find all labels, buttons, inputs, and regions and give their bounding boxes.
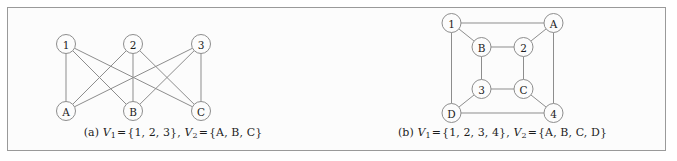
graph-edge	[531, 29, 546, 41]
graph-node-B: B	[124, 102, 143, 121]
graph-node-2: 2	[514, 38, 533, 57]
bipartite-graph-k33: 123ABC	[8, 8, 338, 126]
figure-b-v2-set: {A, B, C, D}	[538, 126, 607, 139]
figure-b-v2-equals: =	[527, 126, 538, 139]
edge-layer	[66, 48, 201, 107]
figure-b-v1-set: {1, 2, 3, 4},	[442, 126, 510, 139]
edge-layer	[452, 23, 554, 113]
node-label: C	[197, 106, 205, 118]
figure-a-v2-set: {A, B, C}	[209, 126, 262, 139]
node-label: B	[478, 42, 486, 54]
graph-node-A: A	[544, 14, 563, 33]
graph-node-3: 3	[472, 80, 491, 99]
figure-b-v2-subscript: 2	[521, 131, 526, 140]
figure-b: 1AB23CD4 (b) V1={1, 2, 3, 4}, V2={A, B, …	[338, 8, 667, 152]
node-label: 1	[448, 18, 455, 30]
figure-a-v2-symbol: V2	[184, 126, 197, 139]
graph-node-4: 4	[544, 104, 563, 123]
node-label: C	[519, 84, 527, 96]
node-label: 2	[520, 42, 527, 54]
graph-node-D: D	[442, 104, 461, 123]
figure-a-v1-symbol: V1	[103, 126, 116, 139]
figure-a: 123ABC (a) V1={1, 2, 3}, V2={A, B, C}	[8, 8, 338, 152]
figure-a-tag: (a)	[84, 126, 99, 139]
graph-edge	[459, 29, 474, 41]
node-label: A	[549, 18, 558, 30]
node-label: D	[447, 108, 455, 120]
figure-b-v1-subscript: 1	[426, 131, 431, 140]
node-label: 4	[550, 108, 557, 120]
figure-a-v1-set: {1, 2, 3},	[127, 126, 180, 139]
node-label: B	[129, 106, 137, 118]
graph-node-3: 3	[192, 35, 211, 54]
graph-a-canvas: 123ABC	[8, 8, 338, 126]
graph-node-C: C	[514, 80, 533, 99]
figure-b-tag: (b)	[398, 126, 414, 139]
bipartite-graph-cube: 1AB23CD4	[338, 8, 667, 126]
graph-edge	[459, 95, 474, 107]
graph-node-1: 1	[57, 35, 76, 54]
figure-a-caption: (a) V1={1, 2, 3}, V2={A, B, C}	[8, 126, 338, 140]
figure-b-caption: (b) V1={1, 2, 3, 4}, V2={A, B, C, D}	[338, 126, 667, 140]
graph-node-2: 2	[124, 35, 143, 54]
figure-a-v1-equals: =	[116, 126, 127, 139]
figure-panel: 123ABC (a) V1={1, 2, 3}, V2={A, B, C} 1A…	[7, 7, 666, 151]
graph-b-canvas: 1AB23CD4	[338, 8, 667, 126]
node-label: A	[61, 106, 70, 118]
graph-node-1: 1	[442, 14, 461, 33]
node-label: 3	[198, 39, 205, 51]
figure-b-v1-symbol: V1	[417, 126, 430, 139]
node-label: 1	[63, 39, 70, 51]
node-label: 3	[478, 84, 485, 96]
figure-a-v2-subscript: 2	[192, 131, 197, 140]
graph-node-B: B	[472, 38, 491, 57]
graph-node-C: C	[192, 102, 211, 121]
graph-edge	[531, 95, 546, 107]
figure-a-v2-equals: =	[198, 126, 209, 139]
figure-b-v2-symbol: V2	[513, 126, 526, 139]
node-label: 2	[130, 39, 137, 51]
graph-node-A: A	[57, 102, 76, 121]
figure-b-v1-equals: =	[431, 126, 442, 139]
